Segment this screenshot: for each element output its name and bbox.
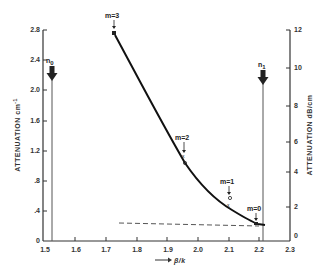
ry-tick-8: 8 <box>294 102 298 109</box>
ry-tick-0: 0 <box>294 232 298 239</box>
right-y-tick-labels: 0 2 4 6 8 10 12 <box>294 26 302 239</box>
left-y-axis-title: ATTENUATION cm-1 <box>12 98 21 172</box>
x-tick-2.0: 2.0 <box>193 246 203 253</box>
x-tick-1.7: 1.7 <box>101 246 111 253</box>
m2-label: m=2 <box>175 134 189 141</box>
y-tick-0.4: .4 <box>34 207 40 214</box>
x-axis-label: β/k <box>173 257 186 265</box>
right-y-axis-title: ATTENUATION dB/cm <box>306 95 313 176</box>
y-tick-0.8: .8 <box>34 177 40 184</box>
svg-text:n0: n0 <box>46 57 54 66</box>
dashed-reference-line <box>119 223 259 226</box>
left-y-label: ATTENUATION cm <box>14 104 21 172</box>
n1-marker: n1 <box>258 61 269 241</box>
m0-point <box>254 222 258 225</box>
left-y-tick-labels: 0 .4 .8 1.2 1.6 2.0 2.4 2.8 <box>30 26 40 244</box>
n1-sub: 1 <box>262 64 266 70</box>
x-tick-1.9: 1.9 <box>163 246 173 253</box>
n0-sub: 0 <box>50 60 54 66</box>
svg-text:n1: n1 <box>258 61 266 70</box>
ry-tick-4: 4 <box>294 168 298 175</box>
m2-x-marker: x <box>182 153 185 159</box>
x-tick-1.6: 1.6 <box>71 246 81 253</box>
m3-label: m=3 <box>105 12 119 19</box>
x-tick-1.5: 1.5 <box>40 246 50 253</box>
x-tick-1.8: 1.8 <box>132 246 142 253</box>
mode-m3: m=3 <box>105 12 119 35</box>
n0-marker: n0 <box>46 57 58 241</box>
ry-tick-6: 6 <box>294 138 298 145</box>
m1-label: m=1 <box>220 178 234 185</box>
attenuation-curve <box>115 35 265 225</box>
x-tick-labels: 1.5 1.6 1.7 1.8 1.9 2.0 2.1 2.2 2.3 <box>40 246 295 253</box>
m0-label: m=0 <box>247 205 261 212</box>
m1-x-marker: x <box>227 202 230 208</box>
y-tick-2.4: 2.4 <box>30 56 40 63</box>
y-tick-0: 0 <box>36 237 40 244</box>
x-axis-title: β/k <box>155 257 186 265</box>
y-tick-2.8: 2.8 <box>30 26 40 33</box>
right-y-label: ATTENUATION dB/cm <box>306 95 313 176</box>
left-y-label-sup: -1 <box>12 98 18 103</box>
x-tick-2.3: 2.3 <box>285 246 295 253</box>
svg-text:ATTENUATION cm-1: ATTENUATION cm-1 <box>12 98 21 172</box>
m1-o-marker <box>228 196 231 199</box>
ry-tick-10: 10 <box>294 64 302 71</box>
x-tick-2.1: 2.1 <box>224 246 234 253</box>
y-tick-2.0: 2.0 <box>30 86 40 93</box>
m3-point <box>112 31 116 35</box>
y-tick-1.6: 1.6 <box>30 117 40 124</box>
mode-m0: m=0 <box>247 205 261 225</box>
y-tick-1.2: 1.2 <box>30 147 40 154</box>
ry-tick-12: 12 <box>294 26 302 33</box>
ry-tick-2: 2 <box>294 203 298 210</box>
attenuation-chart: 0 .4 .8 1.2 1.6 2.0 2.4 2.8 0 2 4 6 8 10… <box>0 0 327 270</box>
x-tick-2.2: 2.2 <box>254 246 264 253</box>
